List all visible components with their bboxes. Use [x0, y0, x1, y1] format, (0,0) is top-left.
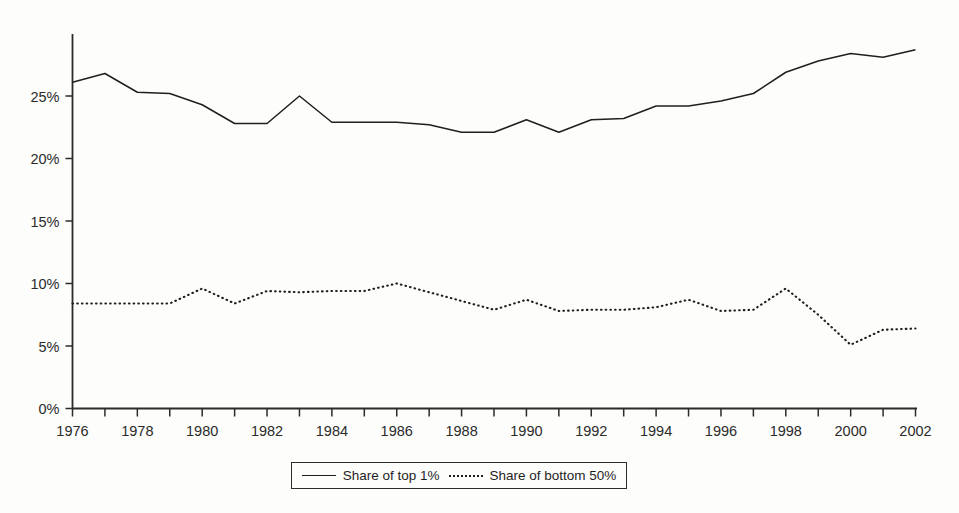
x-tick-label: 2000: [835, 423, 867, 439]
x-tick-label: 1996: [705, 423, 737, 439]
y-tick-label: 0%: [39, 401, 60, 417]
y-tick-label: 15%: [30, 214, 59, 230]
x-tick-label: 1978: [121, 423, 153, 439]
x-tick-label: 1976: [56, 423, 88, 439]
legend-swatch-solid-line-icon: [302, 475, 336, 476]
legend-label-top-1pct: Share of top 1%: [343, 468, 440, 483]
x-tick-label: 1990: [510, 423, 542, 439]
y-tick-label: 20%: [30, 151, 59, 167]
x-tick-label: 1994: [640, 423, 672, 439]
legend-swatch-dotted-line-icon: [449, 475, 483, 477]
x-tick-label: 2002: [899, 423, 931, 439]
x-tick-label: 1992: [575, 423, 607, 439]
legend-entry-top-1pct: Share of top 1%: [302, 468, 440, 483]
y-tick-label: 5%: [39, 339, 60, 355]
y-tick-label: 10%: [30, 276, 59, 292]
y-tick-label: 25%: [30, 89, 59, 105]
line-chart-plot: 0%5%10%15%20%25% 19761978198019821984198…: [0, 0, 959, 513]
chart-legend: Share of top 1% Share of bottom 50%: [291, 462, 627, 489]
x-tick-label: 1986: [381, 423, 413, 439]
x-tick-label: 1982: [251, 423, 283, 439]
x-tick-label: 1998: [770, 423, 802, 439]
chart-figure: 0%5%10%15%20%25% 19761978198019821984198…: [0, 0, 959, 513]
legend-label-bottom-50pct: Share of bottom 50%: [490, 468, 617, 483]
x-tick-label: 1980: [186, 423, 218, 439]
x-tick-label: 1984: [316, 423, 348, 439]
x-tick-label: 1988: [445, 423, 477, 439]
legend-entry-bottom-50pct: Share of bottom 50%: [449, 468, 617, 483]
